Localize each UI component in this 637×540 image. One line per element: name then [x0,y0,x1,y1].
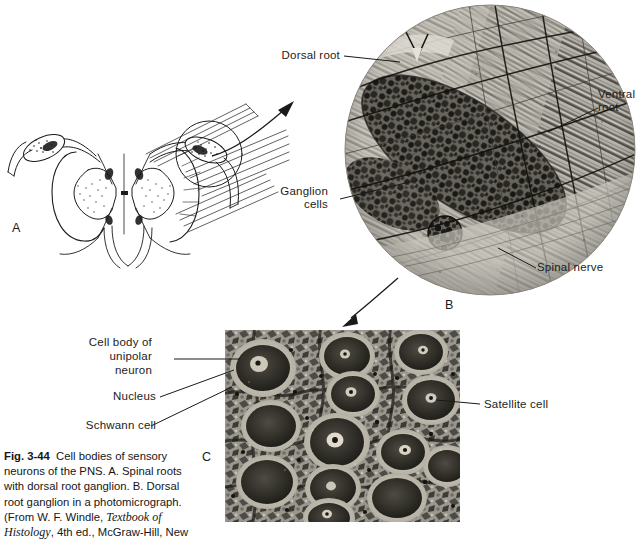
caption-line-4: root ganglion in a photomicrograph. [4,496,182,508]
caption-source-title-part1: Textbook of [106,510,161,524]
label-ganglion-cells-line2: cells [252,198,328,212]
label-ganglion-cells-line1: Ganglion [252,185,328,199]
caption-line-1: Cell bodies of sensory [56,450,167,462]
caption-line-3: with dorsal root ganglion. B. Dorsal [4,480,179,492]
label-nucleus: Nucleus [86,390,156,404]
panel-b-leader-lines [330,40,630,290]
figure-caption: Fig. 3-44 Cell bodies of sensory neurons… [4,449,200,540]
caption-figure-number: Fig. 3-44 [4,450,50,462]
label-schwann-cell: Schwann cell [62,419,156,433]
label-dorsal-root: Dorsal root [262,49,340,63]
label-satellite-cell: Satellite cell [484,398,594,412]
caption-line-2: neurons of the PNS. A. Spinal roots [4,465,182,477]
arrow-a-to-b [208,98,303,160]
panel-a-letter: A [12,221,21,235]
panel-b-letter: B [445,298,454,312]
label-cell-body-line3: neuron [54,364,152,378]
label-cell-body-line2: unipolar [54,350,152,364]
caption-source-title-part2: Histology [4,525,51,539]
caption-line-5: (From W. F. Windle, [4,511,106,523]
label-ventral-root-line2: root [598,101,637,115]
label-spinal-nerve: Spinal nerve [537,261,627,275]
label-ventral-root-line1: Ventral [598,88,637,102]
label-cell-body-line1: Cell body of [54,336,152,350]
panel-c-leader-lines [110,348,580,438]
arrow-b-to-c [318,276,404,334]
caption-line-6: , 4th ed., McGraw-Hill, New [51,526,188,538]
panel-c-letter: C [202,450,211,464]
